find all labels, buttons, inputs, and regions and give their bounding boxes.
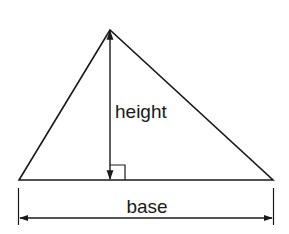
height-label: height (115, 101, 167, 122)
base-label: base (126, 196, 167, 217)
triangle-diagram: height base (0, 0, 289, 234)
right-angle-marker (110, 165, 125, 180)
